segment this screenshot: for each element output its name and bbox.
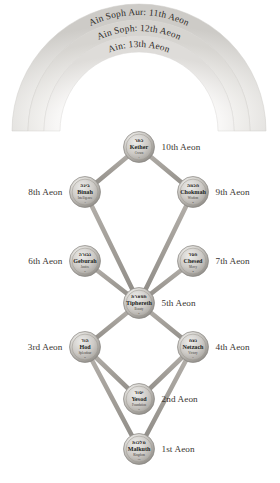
sephirah-name-tiphereth: Tiphereth [126, 300, 152, 306]
aeon-label-yesod: 2nd Aeon [162, 394, 199, 404]
sephirah-binah[interactable]: בינהBinahIntelligence3 [70, 177, 101, 208]
sephirah-name-kether: Kether [130, 144, 149, 150]
sephirah-name-binah: Binah [77, 189, 93, 195]
aeon-label-kether: 10th Aeon [162, 142, 201, 152]
sephirah-name-malkuth: Malkuth [128, 446, 151, 452]
sephirah-hebrew-binah: בינה [80, 183, 90, 188]
sephirah-hebrew-tiphereth: תפארת [131, 294, 146, 299]
tree-of-life-diagram: Ain: 13th Aeon Ain Soph: 12th Aeon Ain S… [0, 0, 280, 483]
sephirah-name-chesed: Chesed [184, 258, 204, 264]
sephirah-geburah[interactable]: גבורהGeburahJustice5 [70, 246, 101, 277]
aeon-label-geburah: 6th Aeon [28, 256, 63, 266]
sephirah-hod[interactable]: הודHodSplendour8 [70, 332, 101, 363]
veils-group: Ain: 13th Aeon Ain Soph: 12th Aeon Ain S… [12, 4, 266, 131]
sephirah-hebrew-hod: הוד [81, 338, 88, 343]
aeon-label-chokmah: 9th Aeon [216, 187, 251, 197]
sephirah-hebrew-malkuth: מלכות [132, 440, 145, 445]
aeon-label-malkuth: 1st Aeon [162, 444, 196, 454]
sephirah-hebrew-geburah: גבורה [79, 252, 91, 257]
aeon-label-chesed: 7th Aeon [216, 256, 251, 266]
sephirah-chesed[interactable]: חסדChesedMercy4 [178, 246, 209, 277]
sephirah-name-netzach: Netzach [183, 344, 205, 350]
sephirah-hebrew-chokmah: חכמה [187, 183, 199, 188]
sephirah-name-geburah: Geburah [73, 258, 97, 264]
aeon-label-netzach: 4th Aeon [216, 342, 251, 352]
sephirah-hebrew-kether: כתר [135, 138, 144, 143]
aeon-label-tiphereth: 5th Aeon [162, 298, 197, 308]
sephirah-hebrew-yesod: יסוד [135, 390, 144, 395]
sephirah-chokmah[interactable]: חכמהChokmahWisdom2 [178, 177, 209, 208]
sephirah-kether[interactable]: כתרKetherCrown1 [124, 132, 155, 163]
sephirah-name-hod: Hod [79, 344, 91, 350]
sephirah-hebrew-netzach: נצח [189, 338, 197, 343]
sephirah-hebrew-chesed: חסד [189, 252, 198, 257]
diagram-canvas: Ain: 13th Aeon Ain Soph: 12th Aeon Ain S… [0, 0, 280, 483]
sephirah-malkuth[interactable]: מלכותMalkuthKingdom10 [124, 434, 155, 465]
sephirah-name-chokmah: Chokmah [180, 189, 206, 195]
aeon-label-binah: 8th Aeon [28, 187, 63, 197]
sephirah-tiphereth[interactable]: תפארתTipherethBeauty6 [124, 288, 155, 319]
aeon-label-hod: 3rd Aeon [28, 342, 63, 352]
sephirah-netzach[interactable]: נצחNetzachVictory7 [178, 332, 209, 363]
sephirah-yesod[interactable]: יסודYesodFoundation9 [124, 384, 155, 415]
sephirah-name-yesod: Yesod [131, 396, 147, 402]
